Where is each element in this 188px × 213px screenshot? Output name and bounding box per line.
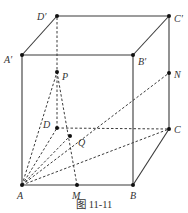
segment-AC bbox=[22, 129, 169, 185]
dashed-edges bbox=[22, 16, 169, 185]
label-N: N bbox=[173, 69, 182, 80]
point-P bbox=[55, 70, 59, 74]
edge-BC bbox=[133, 129, 169, 185]
label-D1: D′ bbox=[36, 11, 47, 22]
point-Q bbox=[68, 134, 72, 138]
point-A1 bbox=[20, 53, 24, 57]
point-B bbox=[131, 183, 135, 187]
cube-diagram: A M B C D Q A′ B′ C′ D′ P N 图 11-11 bbox=[0, 0, 188, 213]
label-C: C bbox=[174, 124, 181, 135]
segment-AQ bbox=[22, 136, 70, 185]
point-D1 bbox=[55, 14, 59, 18]
segment-AP bbox=[22, 72, 57, 185]
figure-caption: 图 11-11 bbox=[76, 199, 112, 210]
point-M bbox=[75, 183, 79, 187]
point-C1 bbox=[167, 14, 171, 18]
point-A bbox=[20, 183, 24, 187]
edge-B1C1 bbox=[133, 16, 169, 55]
label-B: B bbox=[130, 190, 136, 201]
label-Q: Q bbox=[78, 137, 86, 148]
point-B1 bbox=[131, 53, 135, 57]
solid-edges bbox=[22, 16, 169, 185]
point-N bbox=[167, 71, 171, 75]
label-P: P bbox=[61, 71, 68, 82]
edge-AD bbox=[22, 128, 57, 185]
label-D: D bbox=[42, 119, 51, 130]
label-C1: C′ bbox=[174, 13, 184, 24]
label-B1: B′ bbox=[138, 56, 147, 67]
point-D bbox=[55, 126, 59, 130]
label-A1: A′ bbox=[3, 54, 13, 65]
label-A: A bbox=[16, 190, 24, 201]
point-C bbox=[167, 127, 171, 131]
edge-DC bbox=[57, 128, 169, 129]
